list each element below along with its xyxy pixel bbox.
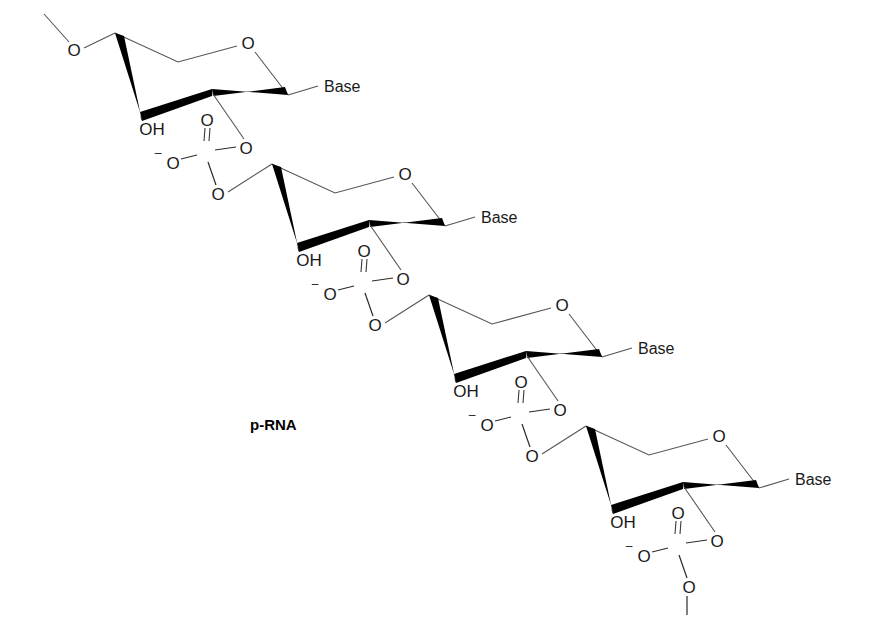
phosphate-ester-oxygen-bottom-1: O (211, 185, 224, 204)
base-bond-3 (602, 348, 632, 357)
ring-bond-c4-c5-o (115, 33, 237, 62)
p-o-bottom-bond-2 (365, 293, 373, 316)
chain-terminus-layer: O (44, 14, 687, 615)
phosphoryl-oxygen-label-2: O (357, 242, 370, 261)
hydroxyl-label-2: OH (296, 251, 322, 270)
ring-bond-c4-c3-bold (429, 295, 456, 383)
c2-o-phosphate-bond-3 (527, 356, 558, 401)
pyranose-unit-3: OOHBaseOOO–O (429, 295, 675, 466)
p-o-bottom-bond-1 (208, 162, 216, 185)
p-o-anion-bond-3 (495, 417, 511, 421)
base-label-4: Base (795, 471, 832, 488)
ring-oxygen-label-2: O (398, 165, 411, 184)
p-o-right-bond-3 (529, 409, 550, 412)
phosphate-ester-oxygen-right-2: O (396, 270, 409, 289)
ring-bond-c2-c1-bold (369, 218, 445, 227)
anionic-oxygen-label-3: O (480, 416, 493, 435)
pyranose-unit-2: OOHBaseOOO–O (272, 164, 518, 335)
pyranose-unit-4: OOHBaseOOO–O (586, 426, 832, 597)
ring-bond-c4-c5-o (586, 426, 708, 455)
phosphoryl-oxygen-label-4: O (671, 504, 684, 523)
base-label-2: Base (481, 209, 518, 226)
base-label-1: Base (324, 78, 361, 95)
chemical-structure-figure: OOHBaseOOO–OOOHBaseOOO–OOOHBaseOOO–OOOHB… (0, 0, 877, 644)
phosphoryl-oxygen-label-3: O (514, 373, 527, 392)
base-label-3: Base (638, 340, 675, 357)
anionic-charge-label-3: – (469, 408, 476, 422)
p-rna-structure-drawing: OOHBaseOOO–OOOHBaseOOO–OOOHBaseOOO–OOOHB… (0, 0, 877, 644)
ring-oxygen-label-3: O (555, 296, 568, 315)
ring-bond-c4-c3-bold (586, 426, 613, 514)
hydroxyl-label-4: OH (610, 513, 636, 532)
anionic-charge-label-2: – (312, 277, 319, 291)
chain-continuation-bond (44, 14, 69, 42)
ring-bond-c4-c5-o (272, 164, 394, 193)
hydroxyl-label-3: OH (453, 382, 479, 401)
phosphodiester-linkage-1 (228, 164, 272, 192)
base-bond-4 (759, 479, 789, 488)
base-bond-2 (445, 217, 475, 226)
hydroxyl-label-1: OH (139, 120, 165, 139)
anionic-charge-label-1: – (155, 146, 162, 160)
ring-bond-c4-c3-bold (272, 164, 299, 252)
ring-bond-c4-c3-bold (115, 33, 142, 121)
anionic-charge-label-4: – (626, 539, 633, 553)
p-o-bottom-bond-4 (679, 555, 687, 578)
p-o-right-bond-1 (215, 147, 236, 150)
anionic-oxygen-label-1: O (166, 154, 179, 173)
p-o-right-bond-2 (372, 278, 393, 281)
phosphate-ester-oxygen-bottom-4: O (682, 578, 695, 597)
phosphoryl-oxygen-label-1: O (200, 111, 213, 130)
phosphate-ester-oxygen-right-4: O (710, 532, 723, 551)
p-o-anion-bond-4 (652, 548, 668, 552)
c2-o-phosphate-bond-1 (213, 94, 244, 139)
ring-bond-c2-c1-bold (526, 349, 602, 358)
figure-caption: p-RNA (250, 416, 297, 433)
phosphate-ester-oxygen-right-1: O (239, 139, 252, 158)
phosphate-ester-oxygen-right-3: O (553, 401, 566, 420)
base-bond-1 (288, 86, 318, 95)
anionic-oxygen-label-2: O (323, 285, 336, 304)
ring-bond-c2-c1-bold (212, 87, 288, 96)
pyranose-unit-1: OOHBaseOOO–O (115, 33, 361, 204)
ring-bond-c2-c1-bold (683, 480, 759, 489)
chain-start-oxygen-label: O (67, 41, 80, 60)
anionic-oxygen-label-4: O (637, 547, 650, 566)
ring-oxygen-label-1: O (241, 34, 254, 53)
phosphodiester-linkage-2 (385, 295, 429, 323)
phosphate-ester-oxygen-bottom-2: O (368, 316, 381, 335)
phosphodiester-linkage-3 (542, 426, 586, 454)
c2-o-phosphate-bond-4 (684, 487, 715, 532)
ring-bond-c4-c5-o (429, 295, 551, 324)
p-o-right-bond-4 (686, 540, 707, 543)
ring-oxygen-label-4: O (712, 427, 725, 446)
p-o-anion-bond-2 (338, 286, 354, 290)
repeat-units-layer: OOHBaseOOO–OOOHBaseOOO–OOOHBaseOOO–OOOHB… (115, 33, 832, 597)
p-o-anion-bond-1 (181, 155, 197, 159)
p-o-bottom-bond-3 (522, 424, 530, 447)
chain-start-o-bond (84, 33, 115, 48)
phosphate-ester-oxygen-bottom-3: O (525, 447, 538, 466)
c2-o-phosphate-bond-2 (370, 225, 401, 270)
